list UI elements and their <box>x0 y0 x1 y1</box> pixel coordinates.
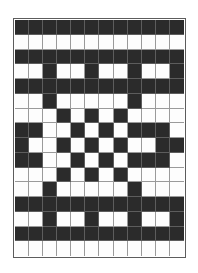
module-cell <box>15 241 29 256</box>
module-cell <box>156 227 170 242</box>
module-cell <box>57 197 71 212</box>
module-cell <box>29 123 43 138</box>
module-cell <box>142 109 156 124</box>
module-cell <box>99 94 113 109</box>
module-cell <box>85 212 99 227</box>
module-cell <box>15 79 29 94</box>
module-cell <box>128 64 142 79</box>
module-cell <box>170 50 184 65</box>
module-cell <box>15 212 29 227</box>
module-cell <box>142 20 156 35</box>
module-cell <box>170 64 184 79</box>
module-cell <box>99 227 113 242</box>
module-cell <box>128 138 142 153</box>
module-cell <box>99 153 113 168</box>
module-cell <box>15 168 29 183</box>
module-cell <box>71 168 85 183</box>
module-cell <box>114 182 128 197</box>
module-cell <box>128 35 142 50</box>
module-cell <box>85 182 99 197</box>
module-cell <box>15 138 29 153</box>
module-cell <box>142 64 156 79</box>
module-cell <box>170 138 184 153</box>
module-cell <box>85 227 99 242</box>
module-cell <box>142 168 156 183</box>
module-cell <box>15 182 29 197</box>
module-cell <box>142 197 156 212</box>
module-cell <box>128 153 142 168</box>
module-cell <box>71 109 85 124</box>
module-cell <box>15 227 29 242</box>
module-cell <box>85 94 99 109</box>
module-cell <box>156 212 170 227</box>
module-cell <box>128 94 142 109</box>
module-cell <box>85 109 99 124</box>
module-cell <box>43 64 57 79</box>
module-cell <box>29 20 43 35</box>
module-cell <box>29 138 43 153</box>
module-cell <box>128 182 142 197</box>
module-cell <box>142 94 156 109</box>
module-cell <box>43 109 57 124</box>
module-cell <box>43 227 57 242</box>
module-cell <box>43 20 57 35</box>
module-cell <box>142 123 156 138</box>
module-cell <box>85 79 99 94</box>
module-cell <box>43 79 57 94</box>
module-cell <box>99 50 113 65</box>
module-cell <box>29 153 43 168</box>
module-cell <box>57 109 71 124</box>
module-cell <box>128 168 142 183</box>
module-cell <box>29 35 43 50</box>
module-cell <box>43 50 57 65</box>
module-cell <box>15 94 29 109</box>
module-cell <box>142 50 156 65</box>
module-cell <box>85 64 99 79</box>
module-cell <box>142 153 156 168</box>
module-cell <box>85 20 99 35</box>
module-cell <box>57 138 71 153</box>
module-cell <box>71 35 85 50</box>
module-cell <box>156 241 170 256</box>
module-cell <box>156 197 170 212</box>
module-cell <box>29 182 43 197</box>
module-cell <box>43 241 57 256</box>
module-cell <box>71 241 85 256</box>
module-cell <box>85 123 99 138</box>
module-cell <box>57 123 71 138</box>
module-cell <box>156 50 170 65</box>
module-cell <box>43 94 57 109</box>
module-cell <box>114 168 128 183</box>
module-cell <box>128 212 142 227</box>
module-cell <box>156 153 170 168</box>
module-cell <box>170 197 184 212</box>
module-cell <box>43 197 57 212</box>
module-cell <box>29 79 43 94</box>
module-cell <box>99 20 113 35</box>
module-cell <box>128 241 142 256</box>
module-cell <box>99 109 113 124</box>
module-cell <box>15 123 29 138</box>
module-cell <box>15 64 29 79</box>
module-cell <box>43 182 57 197</box>
module-cell <box>114 123 128 138</box>
module-cell <box>85 153 99 168</box>
module-cell <box>57 50 71 65</box>
module-cell <box>156 168 170 183</box>
module-cell <box>170 227 184 242</box>
module-cell <box>57 153 71 168</box>
module-cell <box>170 212 184 227</box>
module-cell <box>85 168 99 183</box>
module-cell <box>99 241 113 256</box>
module-cell <box>29 241 43 256</box>
module-cell <box>114 109 128 124</box>
module-cell <box>114 94 128 109</box>
module-cell <box>57 79 71 94</box>
module-cell <box>142 35 156 50</box>
module-cell <box>142 79 156 94</box>
module-cell <box>99 123 113 138</box>
module-cell <box>43 168 57 183</box>
module-cell <box>71 153 85 168</box>
module-cell <box>128 227 142 242</box>
module-cell <box>99 168 113 183</box>
